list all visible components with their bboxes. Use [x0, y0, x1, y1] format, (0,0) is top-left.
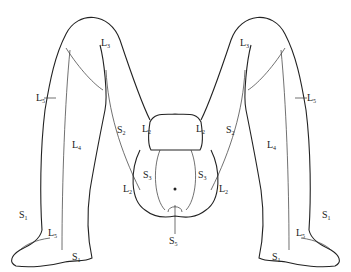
- label-left-L5-outer: L5: [36, 93, 45, 104]
- label-right-S1-heel: S1: [272, 252, 281, 263]
- label-right-L5-outer: L5: [307, 93, 316, 104]
- label-right-L2-upper: L2: [196, 124, 205, 135]
- label-left-S3: S3: [143, 170, 152, 181]
- label-left-L4: L4: [72, 140, 81, 151]
- label-right-L5-foot: L5: [296, 228, 305, 239]
- label-right-L4: L4: [267, 140, 276, 151]
- label-left-L5-foot: L5: [48, 228, 57, 239]
- label-center-S5: S5: [169, 236, 178, 247]
- dermatome-diagram: L3 L5 L4 S2 L2 S3 L2 S1 L5 S1 L3 L5 L4 S…: [0, 0, 351, 272]
- label-right-L3: L3: [240, 38, 249, 49]
- label-right-L2-lower: L2: [219, 184, 228, 195]
- label-left-L2-lower: L2: [123, 184, 132, 195]
- anus-marker: [174, 188, 177, 191]
- label-right-S3: S3: [198, 170, 207, 181]
- label-left-S1-heel: S1: [72, 252, 81, 263]
- label-left-S2: S2: [117, 125, 126, 136]
- label-left-S1-toe: S1: [19, 210, 28, 221]
- label-left-L2-upper: L2: [142, 124, 151, 135]
- label-left-L3: L3: [101, 38, 110, 49]
- label-right-S1-toe: S1: [322, 210, 331, 221]
- label-right-S2: S2: [226, 125, 235, 136]
